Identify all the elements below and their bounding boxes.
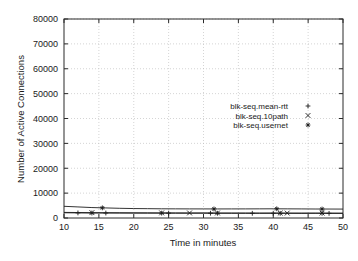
data-point-marker	[320, 207, 325, 212]
x-tick-label: 45	[303, 222, 313, 232]
y-tick-label: 20000	[33, 164, 58, 174]
legend-label-1: blk-seq.10path	[236, 112, 288, 121]
legend-label-2: blk-seq.usernet	[233, 121, 288, 130]
legend-symbol-2	[306, 123, 311, 128]
y-tick-label: 40000	[33, 114, 58, 124]
data-point-marker	[274, 206, 279, 211]
legend-label-0: blk-seq.mean-rtt	[230, 102, 289, 111]
y-tick-label: 80000	[33, 14, 58, 24]
x-tick-label: 40	[268, 222, 278, 232]
y-tick-label: 30000	[33, 139, 58, 149]
y-tick-label: 0	[53, 213, 58, 223]
y-tick-label: 10000	[33, 188, 58, 198]
y-axis-title: Number of Active Connections	[15, 55, 26, 183]
x-tick-label: 10	[59, 222, 69, 232]
x-tick-label: 25	[164, 222, 174, 232]
y-tick-label: 60000	[33, 64, 58, 74]
chart-figure: 0100002000030000400005000060000700008000…	[0, 0, 358, 261]
x-tick-label: 30	[198, 222, 208, 232]
x-tick-label: 35	[233, 222, 243, 232]
data-point-marker	[212, 207, 217, 212]
x-axis-title: Time in minutes	[170, 237, 237, 248]
x-tick-label: 15	[94, 222, 104, 232]
active-connections-line-chart: 0100002000030000400005000060000700008000…	[0, 0, 358, 261]
y-axis-tick-labels: 0100002000030000400005000060000700008000…	[33, 14, 58, 223]
x-axis-tick-labels: 101520253035404550	[59, 222, 348, 232]
y-tick-label: 50000	[33, 89, 58, 99]
x-tick-label: 20	[129, 222, 139, 232]
y-tick-label: 70000	[33, 39, 58, 49]
x-tick-label: 50	[338, 222, 348, 232]
data-point-marker	[100, 205, 105, 210]
